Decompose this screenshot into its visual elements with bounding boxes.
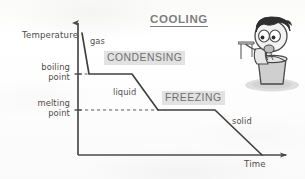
- pupil-right: [272, 36, 276, 40]
- melting-point-tick-label-line1: melting: [10, 99, 70, 108]
- mouth: [264, 45, 274, 53]
- boiling-point-tick-label-line1: boiling: [10, 63, 70, 72]
- melting-point-tick-label-line2: point: [10, 109, 70, 118]
- state-label-gas: gas: [90, 37, 105, 46]
- phase-label-freezing: FREEZING: [162, 91, 225, 105]
- table: [238, 42, 254, 44]
- phase-label-condensing: CONDENSING: [104, 51, 185, 65]
- y-axis-label: Temperature: [22, 31, 78, 40]
- pupil-left: [261, 36, 265, 40]
- illustration-person-vomiting: [238, 12, 305, 94]
- eye-left: [259, 30, 270, 42]
- boiling-point-tick-label-line2: point: [10, 73, 70, 82]
- eye-right: [270, 30, 281, 42]
- state-label-solid: solid: [232, 117, 252, 126]
- x-axis-label: Time: [244, 160, 266, 169]
- state-label-liquid: liquid: [113, 88, 136, 97]
- cooling-curve-figure: COOLING Temperature Time boiling point m…: [0, 0, 305, 179]
- figure-title: COOLING: [150, 13, 208, 25]
